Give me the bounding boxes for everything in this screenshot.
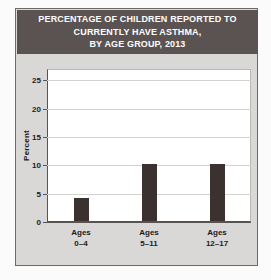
chart-title-band: PERCENTAGE OF CHILDREN REPORTED TO CURRE… [17,10,258,54]
x-category-label-0: Ages0–4 [48,227,114,249]
chart-title-line-1: PERCENTAGE OF CHILDREN REPORTED TO [38,13,236,26]
y-tick-mark-5 [43,194,47,195]
y-tick-mark-0 [43,222,47,223]
bar-0 [74,198,89,221]
y-tick-mark-15 [43,137,47,138]
x-category-label-2: Ages12–17 [184,227,250,249]
chart-figure: PERCENTAGE OF CHILDREN REPORTED TO CURRE… [15,8,258,266]
chart-title-line-3: BY AGE GROUP, 2013 [89,38,185,51]
y-tick-label-15: 15 [32,133,41,142]
gridline-0 [47,222,251,223]
bar-2 [210,164,225,221]
bar-1 [142,164,157,221]
y-tick-mark-25 [43,80,47,81]
y-tick-label-20: 20 [32,104,41,113]
x-category-label-1: Ages5–11 [116,227,182,249]
y-tick-label-0: 0 [37,218,41,227]
y-axis-title: Percent [20,69,32,222]
y-tick-label-10: 10 [32,161,41,170]
chart-title-line-2: CURRENTLY HAVE ASTHMA, [74,26,202,39]
y-tick-label-25: 25 [32,76,41,85]
y-tick-label-5: 5 [37,189,41,198]
plot-wrapper: 0510152025 [47,69,251,222]
y-tick-mark-10 [43,165,47,166]
y-tick-mark-20 [43,109,47,110]
